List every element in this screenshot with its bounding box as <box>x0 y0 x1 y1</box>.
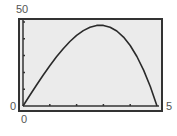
ymin-label: 0 <box>10 101 16 112</box>
xmin-label: 0 <box>21 114 27 125</box>
ymax-label: 50 <box>16 4 28 15</box>
xmax-label: 5 <box>166 101 172 112</box>
